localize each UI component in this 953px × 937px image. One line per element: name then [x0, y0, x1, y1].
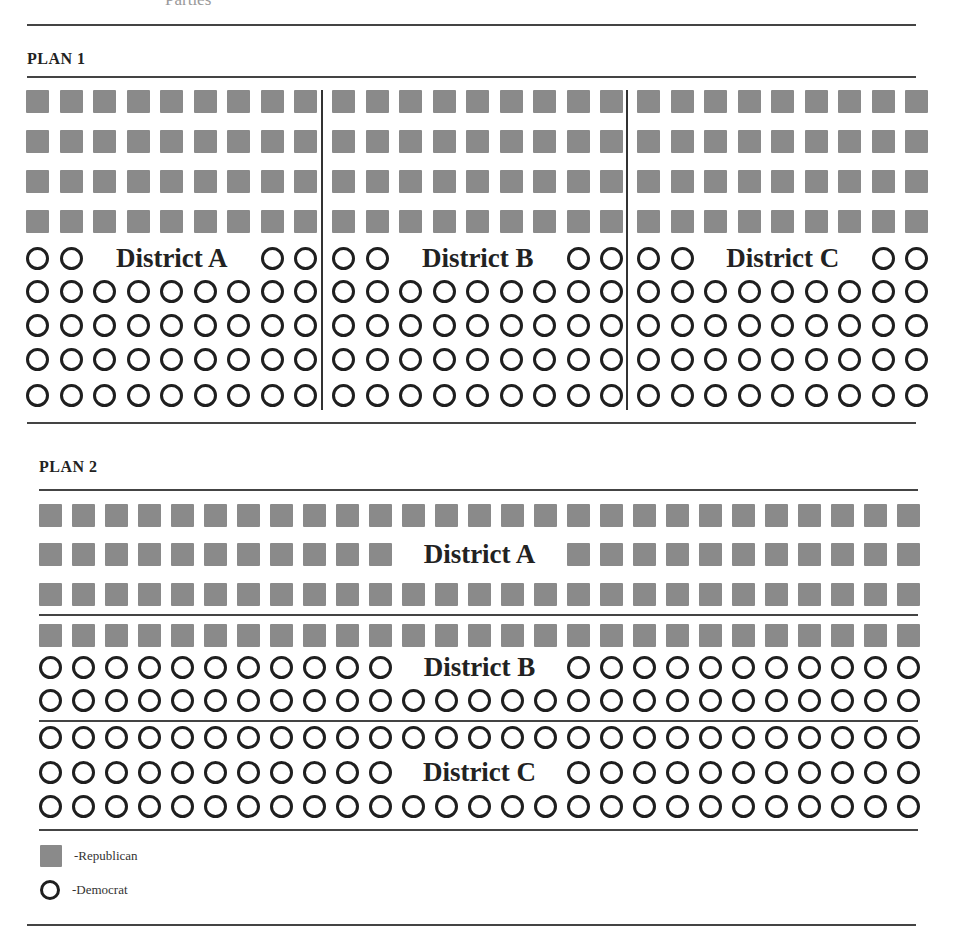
democrat-circle-icon	[237, 689, 260, 712]
democrat-circle-icon	[105, 795, 128, 818]
republican-voter	[232, 539, 265, 569]
republican-voter	[867, 126, 901, 156]
republican-square-icon	[105, 583, 128, 606]
plan2-row-district-b: District B	[34, 652, 925, 682]
democrat-circle-icon	[533, 348, 556, 371]
democrat-circle-icon	[633, 726, 656, 749]
democrat-circle-icon	[600, 247, 623, 270]
republican-square-icon	[60, 90, 83, 113]
democrat-circle-icon	[771, 314, 794, 337]
republican-square-icon	[369, 504, 392, 527]
democrat-voter	[661, 652, 694, 682]
republican-square-icon	[798, 543, 821, 566]
republican-square-icon	[72, 504, 95, 527]
republican-square-icon	[72, 624, 95, 647]
democrat-voter	[265, 722, 298, 752]
democrat-voter	[495, 380, 529, 410]
democrat-circle-icon	[798, 656, 821, 679]
top-rule	[27, 24, 916, 26]
democrat-circle-icon	[26, 280, 49, 303]
democrat-voter	[88, 380, 122, 410]
republican-voter	[298, 539, 331, 569]
republican-square-icon	[897, 504, 920, 527]
democrat-circle-icon	[227, 314, 250, 337]
republican-square-icon	[501, 624, 524, 647]
democrat-circle-icon	[194, 348, 217, 371]
republican-square-icon	[72, 583, 95, 606]
democrat-voter	[166, 685, 199, 715]
democrat-voter	[461, 344, 495, 374]
republican-square-icon	[60, 210, 83, 233]
democrat-circle-icon	[60, 384, 83, 407]
republican-square-icon	[160, 210, 183, 233]
republican-voter	[760, 539, 793, 569]
democrat-circle-icon	[72, 761, 95, 784]
republican-voter	[727, 620, 760, 650]
democrat-circle-icon	[732, 656, 755, 679]
republican-square-icon	[905, 90, 928, 113]
republican-voter	[67, 620, 100, 650]
district-label: District C	[397, 757, 562, 787]
democrat-circle-icon	[798, 689, 821, 712]
republican-voter	[562, 86, 596, 116]
democrat-voter	[298, 652, 331, 682]
republican-voter	[562, 166, 596, 196]
republican-square-icon	[261, 170, 284, 193]
republican-square-icon	[600, 90, 623, 113]
democrat-voter	[265, 685, 298, 715]
republican-voter	[628, 500, 661, 530]
republican-square-icon	[831, 504, 854, 527]
democrat-voter	[833, 310, 867, 340]
democrat-circle-icon	[237, 656, 260, 679]
democrat-voter	[461, 276, 495, 306]
democrat-circle-icon	[831, 726, 854, 749]
republican-square-icon	[704, 210, 727, 233]
republican-voter	[595, 206, 629, 236]
republican-square-icon	[897, 624, 920, 647]
democrat-voter	[428, 344, 462, 374]
democrat-circle-icon	[294, 247, 317, 270]
democrat-voter	[766, 380, 800, 410]
republican-voter	[529, 579, 562, 609]
democrat-circle-icon	[261, 384, 284, 407]
republican-voter	[394, 206, 428, 236]
democrat-circle-icon	[765, 795, 788, 818]
republican-voter	[34, 500, 67, 530]
republican-square-icon	[765, 543, 788, 566]
democrat-voter	[298, 757, 331, 787]
democrat-circle-icon	[666, 795, 689, 818]
republican-square-icon	[105, 624, 128, 647]
democrat-circle-icon	[805, 384, 828, 407]
plan1-district-c-row	[632, 166, 934, 196]
democrat-voter	[428, 310, 462, 340]
republican-voter	[256, 126, 290, 156]
republican-square-icon	[600, 170, 623, 193]
democrat-voter	[727, 652, 760, 682]
republican-voter	[122, 86, 156, 116]
democrat-circle-icon	[294, 348, 317, 371]
republican-square-icon	[732, 583, 755, 606]
democrat-circle-icon	[872, 384, 895, 407]
republican-square-icon	[60, 170, 83, 193]
democrat-circle-icon	[336, 689, 359, 712]
republican-square-icon	[433, 90, 456, 113]
democrat-voter	[595, 791, 628, 821]
republican-voter	[289, 206, 323, 236]
democrat-voter	[867, 310, 901, 340]
republican-voter	[666, 86, 700, 116]
democrat-voter	[256, 344, 290, 374]
democrat-voter	[826, 757, 859, 787]
democrat-circle-icon	[671, 280, 694, 303]
republican-square-icon	[600, 583, 623, 606]
democrat-circle-icon	[227, 280, 250, 303]
democrat-circle-icon	[738, 280, 761, 303]
democrat-voter	[694, 757, 727, 787]
democrat-voter	[694, 722, 727, 752]
plan2-top-rule	[39, 489, 918, 491]
democrat-voter	[733, 310, 767, 340]
democrat-circle-icon	[897, 689, 920, 712]
democrat-circle-icon	[699, 726, 722, 749]
democrat-circle-icon	[138, 795, 161, 818]
democrat-voter	[666, 380, 700, 410]
republican-square-icon	[127, 210, 150, 233]
